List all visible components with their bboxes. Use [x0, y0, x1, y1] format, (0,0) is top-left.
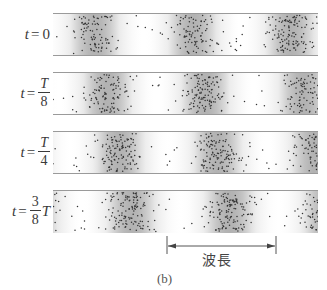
time-label-t3: t = 3 8 T	[0, 190, 50, 232]
particle-tube-t3	[53, 190, 318, 233]
period-symbol: T	[42, 203, 50, 220]
time-label-t1: t = T 8	[0, 72, 50, 114]
fraction-numerator: T	[38, 136, 50, 152]
fraction-numerator: 3	[30, 195, 41, 211]
fraction-numerator: T	[38, 77, 50, 93]
fraction: 3 8	[30, 195, 41, 227]
equals-sign: =	[27, 85, 35, 102]
time-variable: t	[25, 26, 29, 43]
time-variable: t	[21, 85, 25, 102]
time-variable: t	[21, 144, 25, 161]
time-label-t2: t = T 4	[0, 131, 50, 173]
particle-tube-t1	[53, 72, 318, 115]
equals-sign: =	[31, 26, 39, 43]
particle-field	[53, 191, 318, 233]
particle-tube-t2	[53, 131, 318, 174]
time-label-t0: t = 0	[0, 13, 50, 55]
fraction-denominator: 4	[41, 152, 48, 168]
particle-tube-t0	[53, 13, 318, 56]
figure-caption: (b)	[157, 271, 172, 287]
time-variable: t	[12, 203, 16, 220]
time-value: 0	[43, 26, 51, 43]
fraction-denominator: 8	[32, 211, 39, 227]
particle-field	[53, 73, 318, 114]
equals-sign: =	[18, 203, 26, 220]
fraction: T 4	[38, 136, 50, 168]
particle-field	[53, 132, 318, 173]
equals-sign: =	[27, 144, 35, 161]
wavelength-label: 波長	[202, 249, 232, 269]
fraction-denominator: 8	[41, 93, 48, 109]
particle-field	[53, 14, 318, 55]
fraction: T 8	[38, 77, 50, 109]
